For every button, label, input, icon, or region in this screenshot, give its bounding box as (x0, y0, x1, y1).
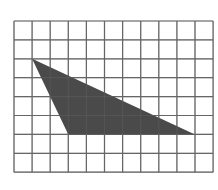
grid-lines-overlay (14, 21, 213, 172)
grid-diagram (0, 0, 218, 190)
